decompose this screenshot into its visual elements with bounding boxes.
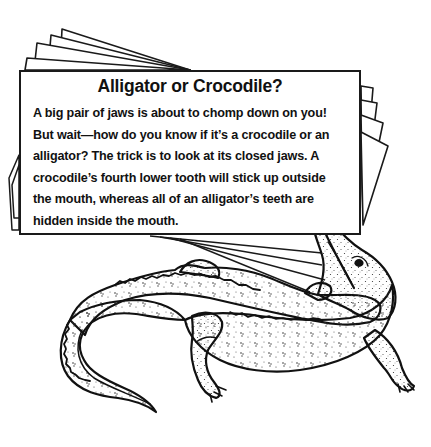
stacked-cards-top	[25, 29, 190, 70]
card-body-line: crocodile’s fourth lower tooth will stic…	[33, 168, 353, 190]
card-body: A big pair of jaws is about to chomp dow…	[33, 103, 353, 233]
card-body-line: But wait—how do you know if it’s a croco…	[33, 125, 353, 147]
card-body-line: hidden inside the mouth.	[33, 211, 353, 233]
info-card: Alligator or Crocodile? A big pair of ja…	[19, 70, 361, 235]
stacked-cards-right	[361, 86, 388, 225]
card-body-line: the mouth, whereas all of an alligator’s…	[33, 189, 353, 211]
card-body-line: alligator? The trick is to look at its c…	[33, 146, 353, 168]
stacked-cards-left	[9, 155, 19, 230]
card-title: Alligator or Crocodile?	[21, 76, 359, 97]
card-body-line: A big pair of jaws is about to chomp dow…	[33, 103, 353, 125]
